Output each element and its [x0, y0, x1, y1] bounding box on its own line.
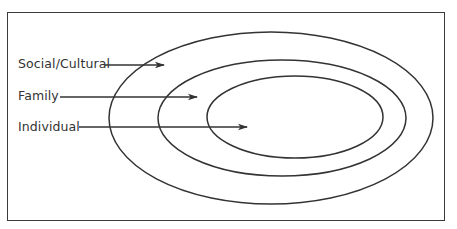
middle-ellipse-family: [158, 60, 406, 176]
inner-ellipse-individual: [207, 76, 383, 158]
label-social-cultural: Social/Cultural: [18, 58, 110, 71]
label-individual: Individual: [18, 121, 80, 134]
label-family: Family: [18, 90, 59, 103]
diagram-shapes: [0, 0, 457, 229]
nested-ellipse-diagram: Social/Cultural Family Individual: [0, 0, 457, 229]
